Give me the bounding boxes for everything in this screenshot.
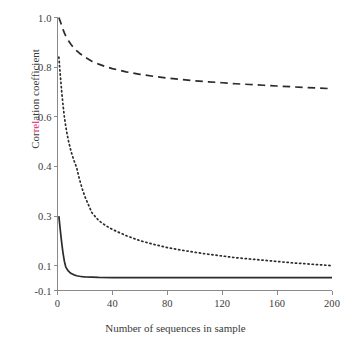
dashed-curve: [59, 18, 332, 89]
x-tick-label-2: 80: [162, 298, 173, 309]
plot-canvas: [0, 0, 351, 348]
y-axis-title-part-2: ation coefficient: [29, 49, 41, 121]
x-axis-title: Number of sequences in sample: [0, 322, 351, 334]
y-axis-title-tinted: rel: [29, 121, 41, 133]
y-tick-label-5: 0.1: [8, 260, 52, 271]
correlation-coefficient-chart: 1.00.80.60.40.30.1-0.1 04080120160200 Nu…: [0, 0, 351, 348]
data-curves: [59, 18, 332, 278]
x-tick-label-5: 200: [324, 298, 340, 309]
y-axis-title: Correlation coefficient: [29, 4, 41, 194]
x-tick-label-4: 160: [269, 298, 285, 309]
y-axis-title-part-1: Cor: [29, 132, 41, 149]
solid-curve: [59, 216, 332, 278]
x-tick-label-0: 0: [55, 298, 60, 309]
dotted-curve: [59, 57, 332, 265]
y-tick-label-6: -0.1: [8, 285, 52, 296]
x-tick-label-3: 120: [214, 298, 230, 309]
x-tick-label-1: 40: [107, 298, 118, 309]
axes: [54, 18, 333, 295]
y-tick-label-4: 0.3: [8, 211, 52, 222]
